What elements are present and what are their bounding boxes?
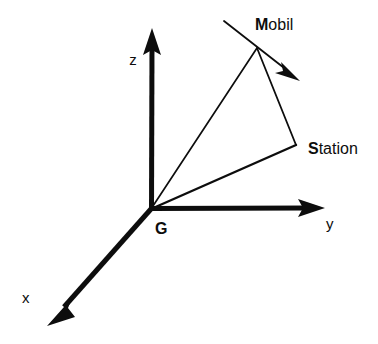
coordinate-system-diagram: z y x Mobil xyxy=(0,0,378,344)
axis-z: z xyxy=(129,28,161,209)
axis-y-line xyxy=(151,208,308,209)
label-mobil-text: Mobil xyxy=(255,16,293,33)
axis-label-z: z xyxy=(129,51,137,68)
label-mobil-initial: M xyxy=(255,16,268,33)
vector-group xyxy=(151,48,296,209)
label-station-rest: tation xyxy=(319,140,358,157)
axis-x: x xyxy=(22,209,151,326)
axis-z-line xyxy=(152,44,153,209)
axis-label-y: y xyxy=(326,215,334,232)
label-station-text: Station xyxy=(308,140,358,157)
diagram-canvas: z y x Mobil xyxy=(0,0,378,344)
axis-y: y xyxy=(151,199,334,232)
label-mobil-rest: obil xyxy=(268,16,293,33)
label-station: Station xyxy=(308,140,358,157)
axis-x-line xyxy=(64,209,151,307)
axis-label-x: x xyxy=(22,289,30,306)
label-mobil: Mobil xyxy=(255,16,293,33)
label-origin-g: G xyxy=(155,220,167,237)
label-station-initial: S xyxy=(308,140,319,157)
